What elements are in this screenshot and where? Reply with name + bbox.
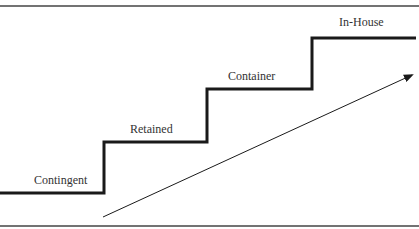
progression-arrow bbox=[103, 75, 412, 217]
step-label-retained: Retained bbox=[130, 122, 173, 136]
step-label-container: Container bbox=[228, 69, 275, 83]
step-label-in-house: In-House bbox=[339, 15, 384, 29]
staircase-line bbox=[0, 38, 416, 193]
staircase-diagram: Contingent Retained Container In-House bbox=[0, 0, 419, 229]
step-label-contingent: Contingent bbox=[34, 173, 88, 187]
